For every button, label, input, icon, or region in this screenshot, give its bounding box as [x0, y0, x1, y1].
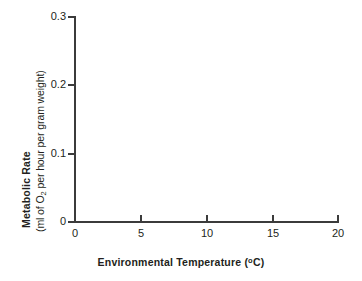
y-tick-0.3	[68, 16, 75, 18]
y-tick-label-0: 0	[26, 216, 66, 227]
x-axis-title-text: Environmental Temperature (	[98, 256, 249, 268]
x-axis-title: Environmental Temperature (oC)	[0, 256, 362, 268]
plot-area[interactable]	[75, 17, 339, 222]
y-tick-label-0.2: 0.2	[26, 79, 66, 90]
y-axis-subtitle-subscript: 2	[39, 191, 48, 195]
x-tick-20	[337, 215, 339, 223]
x-tick-label-20: 20	[318, 228, 358, 239]
y-axis-line	[74, 16, 76, 223]
y-tick-0.1	[68, 153, 75, 155]
y-axis-title-group: Metabolic Rate (ml of O2 per hour per gr…	[0, 0, 72, 232]
x-tick-label-0: 0	[55, 228, 95, 239]
x-tick-15	[272, 215, 274, 223]
x-tick-label-5: 5	[121, 228, 161, 239]
x-tick-5	[140, 215, 142, 223]
x-tick-10	[206, 215, 208, 223]
y-tick-label-0.3: 0.3	[26, 11, 66, 22]
x-tick-label-10: 10	[187, 228, 227, 239]
x-axis-title-unit: C)	[253, 256, 264, 268]
y-tick-label-0.1: 0.1	[26, 148, 66, 159]
x-tick-0	[74, 215, 76, 223]
y-tick-0.2	[68, 84, 75, 86]
x-tick-label-15: 15	[253, 228, 293, 239]
metabolic-rate-chart: Metabolic Rate (ml of O2 per hour per gr…	[0, 0, 362, 281]
